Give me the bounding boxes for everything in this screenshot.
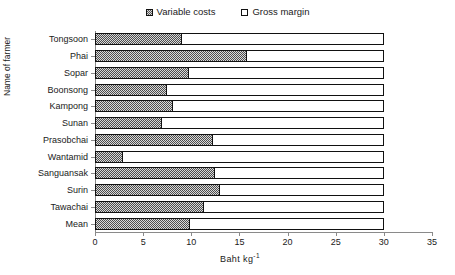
x-axis-tick-label: 30 xyxy=(379,237,389,247)
y-axis-category-label: Surin xyxy=(67,185,88,195)
y-axis-category-label: Kampong xyxy=(49,101,88,111)
x-axis-title: Baht kg-1 xyxy=(95,252,385,264)
y-axis-category-label: Tawachai xyxy=(50,202,88,212)
x-axis-tick xyxy=(384,232,385,236)
y-axis-title: Name of farmer xyxy=(2,37,12,96)
bar-row[interactable]: Sanguansak xyxy=(95,167,432,179)
bar-segment-variable-costs[interactable] xyxy=(95,134,213,146)
x-axis-tick xyxy=(239,232,240,236)
legend-label-gross-margin: Gross margin xyxy=(252,6,309,18)
x-axis-title-text: Baht kg xyxy=(220,254,253,264)
bar-row[interactable]: Prasobchai xyxy=(95,134,432,146)
bar-segment-variable-costs[interactable] xyxy=(95,151,123,163)
x-axis-tick xyxy=(288,232,289,236)
bar-row[interactable]: Mean xyxy=(95,218,432,230)
x-axis-tick xyxy=(143,232,144,236)
bar-row[interactable]: Kampong xyxy=(95,100,432,112)
bar-row[interactable]: Sunan xyxy=(95,117,432,129)
bar-segment-variable-costs[interactable] xyxy=(95,167,215,179)
stacked-bar-chart: Variable costs Gross margin Name of farm… xyxy=(0,0,455,275)
bar-segment-variable-costs[interactable] xyxy=(95,218,190,230)
bar-segment-variable-costs[interactable] xyxy=(95,201,204,213)
legend-entry-gross-margin: Gross margin xyxy=(241,6,309,18)
x-axis-tick xyxy=(95,232,96,236)
legend-entry-variable-costs: Variable costs xyxy=(146,6,216,18)
x-axis-tick-label: 15 xyxy=(234,237,244,247)
variable-costs-swatch-icon xyxy=(146,9,153,16)
y-axis-category-label: Phai xyxy=(70,51,88,61)
bar-segment-gross-margin[interactable] xyxy=(95,151,384,163)
legend-label-variable-costs: Variable costs xyxy=(157,6,216,18)
bar-segment-variable-costs[interactable] xyxy=(95,50,247,62)
chart-legend: Variable costs Gross margin xyxy=(0,6,455,18)
x-axis-tick-label: 0 xyxy=(92,237,97,247)
y-axis-category-label: Sanguansak xyxy=(38,168,88,178)
bar-segment-variable-costs[interactable] xyxy=(95,84,167,96)
x-axis-tick-label: 5 xyxy=(141,237,146,247)
x-axis-tick-label: 25 xyxy=(331,237,341,247)
gross-margin-swatch-icon xyxy=(241,9,248,16)
x-axis-tick xyxy=(191,232,192,236)
y-axis-category-label: Tongsoon xyxy=(49,34,88,44)
bar-row[interactable]: Tongsoon xyxy=(95,33,432,45)
bar-row[interactable]: Surin xyxy=(95,184,432,196)
x-axis-tick-label: 35 xyxy=(427,237,437,247)
bar-segment-variable-costs[interactable] xyxy=(95,67,189,79)
x-axis-line xyxy=(95,232,432,233)
y-axis-category-label: Mean xyxy=(65,219,88,229)
x-axis-title-exponent: -1 xyxy=(253,252,260,259)
x-axis-tick xyxy=(432,232,433,236)
bar-segment-variable-costs[interactable] xyxy=(95,100,173,112)
bar-row[interactable]: Tawachai xyxy=(95,201,432,213)
bar-segment-variable-costs[interactable] xyxy=(95,184,220,196)
bar-row[interactable]: Phai xyxy=(95,50,432,62)
x-axis-tick-label: 20 xyxy=(283,237,293,247)
bar-segment-variable-costs[interactable] xyxy=(95,33,182,45)
bar-segment-variable-costs[interactable] xyxy=(95,117,162,129)
x-axis-tick-label: 10 xyxy=(186,237,196,247)
y-axis-category-label: Boonsong xyxy=(47,85,88,95)
y-axis-category-label: Sopar xyxy=(64,68,88,78)
bar-row[interactable]: Wantamid xyxy=(95,151,432,163)
y-axis-category-label: Prasobchai xyxy=(43,135,88,145)
y-axis-category-label: Wantamid xyxy=(48,152,88,162)
bar-row[interactable]: Boonsong xyxy=(95,84,432,96)
plot-area: 05101520253035 TongsoonPhaiSoparBoonsong… xyxy=(95,31,432,232)
x-axis-tick xyxy=(336,232,337,236)
y-axis-category-label: Sunan xyxy=(62,118,88,128)
bar-row[interactable]: Sopar xyxy=(95,67,432,79)
